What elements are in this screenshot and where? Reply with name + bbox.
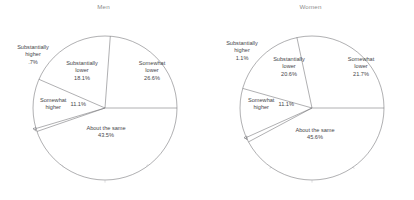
- pie-svg-women: [207, 0, 414, 200]
- slice-value-women-somewhat-lower: 21.7%: [329, 71, 393, 78]
- slice-label-men-somewhat-lower-line1: Somewhat: [120, 60, 184, 67]
- slice-label-women-somewhat-lower-line1: Somewhat: [329, 56, 393, 63]
- slice-value-women-somewhat-higher: 11.1%: [274, 101, 293, 108]
- slice-callout-men-substantially-higher: Substantially higher .7%: [0, 44, 66, 66]
- slice-label-women-about-the-same-line1: About the same: [275, 127, 355, 134]
- slice-label-women-somewhat-lower: Somewhat lower 21.7%: [329, 56, 393, 78]
- slice-callout-women-substantially-higher-line1: Substantially: [209, 40, 275, 47]
- slice-value-women-substantially-lower: 20.6%: [253, 71, 325, 78]
- pie-panel-women: Women: [207, 0, 414, 200]
- slice-value-women-about-the-same: 45.6%: [275, 134, 355, 141]
- slice-callout-women-substantially-higher-line2: higher: [209, 47, 275, 54]
- slice-label-women-substantially-lower-line2: lower: [253, 63, 325, 70]
- slice-label-men-somewhat-higher-line1: Somewhat: [40, 97, 66, 104]
- slice-label-men-somewhat-higher-name: Somewhat higher: [40, 97, 66, 112]
- slice-label-women-somewhat-lower-line2: lower: [329, 63, 393, 70]
- slice-label-men-about-the-same: About the same 43.5%: [66, 125, 146, 140]
- slice-label-men-somewhat-higher-line2: higher: [40, 104, 66, 111]
- pie-panel-men: Men: [0, 0, 207, 200]
- slice-label-women-somewhat-higher-line2: higher: [248, 104, 274, 111]
- slice-label-women-somewhat-higher-line1: Somewhat: [248, 97, 274, 104]
- slice-label-men-substantially-lower-line2: lower: [46, 67, 118, 74]
- slice-value-men-about-the-same: 43.5%: [66, 132, 146, 139]
- slice-value-men-substantially-lower: 18.1%: [46, 75, 118, 82]
- pie-arc-ticks-women: [270, 166, 354, 182]
- slice-label-women-somewhat-higher-name: Somewhat higher: [248, 97, 274, 112]
- slice-label-men-somewhat-higher: Somewhat higher 11.1%: [40, 97, 86, 112]
- pie-svg-men: [0, 0, 207, 200]
- slice-value-men-somewhat-higher: 11.1%: [66, 101, 85, 108]
- slice-value-women-substantially-higher: 1.1%: [209, 55, 275, 62]
- slice-callout-men-substantially-higher-line2: higher: [0, 51, 66, 58]
- slice-value-men-substantially-higher: .7%: [0, 59, 66, 66]
- slice-callout-men-substantially-higher-line1: Substantially: [0, 44, 66, 51]
- slice-label-men-about-the-same-line1: About the same: [66, 125, 146, 132]
- slice-label-women-somewhat-higher: Somewhat higher 11.1%: [248, 97, 294, 112]
- slice-label-men-somewhat-lower: Somewhat lower 26.6%: [120, 60, 184, 82]
- slice-label-men-somewhat-lower-line2: lower: [120, 67, 184, 74]
- slice-value-men-somewhat-lower: 26.6%: [120, 75, 184, 82]
- slice-label-women-about-the-same: About the same 45.6%: [275, 127, 355, 142]
- slice-callout-women-substantially-higher: Substantially higher 1.1%: [209, 40, 275, 62]
